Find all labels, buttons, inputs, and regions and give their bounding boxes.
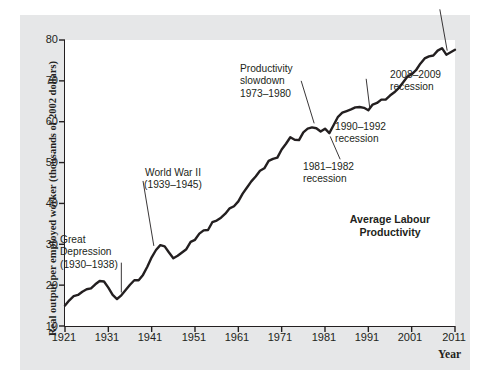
x-tick-label-1931: 1931 bbox=[87, 331, 127, 343]
x-tick-label-1941: 1941 bbox=[130, 331, 170, 343]
figure-panel: Real output per employed worker (thousan… bbox=[20, 15, 470, 370]
y-tick-label-20: 20 bbox=[32, 279, 58, 291]
x-tick-label-2001: 2001 bbox=[390, 331, 430, 343]
x-tick-label-1971: 1971 bbox=[260, 331, 300, 343]
x-tick-label-1981: 1981 bbox=[304, 331, 344, 343]
leader-recession-2008-2009 bbox=[440, 9, 447, 50]
x-tick-label-1921: 1921 bbox=[44, 331, 84, 343]
annotation-recession-1990-1992: 1990–1992 recession bbox=[335, 121, 386, 146]
y-tick-label-70: 70 bbox=[32, 74, 58, 86]
y-tick-label-30: 30 bbox=[32, 238, 58, 250]
x-tick-label-2011: 2011 bbox=[434, 331, 474, 343]
y-tick-label-60: 60 bbox=[32, 115, 58, 127]
annotation-great-depression: Great Depression (1930–1938) bbox=[60, 234, 118, 271]
x-tick-label-1961: 1961 bbox=[217, 331, 257, 343]
x-tick-label-1991: 1991 bbox=[347, 331, 387, 343]
annotation-productivity-slowdown: Productivity slowdown 1973–1980 bbox=[240, 63, 293, 100]
y-tick-label-40: 40 bbox=[32, 197, 58, 209]
annotation-recession-2008-2009: 2008–2009 recession bbox=[390, 69, 441, 94]
x-tick-label-1951: 1951 bbox=[174, 331, 214, 343]
annotation-world-war-two: World War II (1939–1945) bbox=[130, 167, 216, 192]
annotation-recession-1981-1982: 1981–1982 recession bbox=[303, 161, 354, 186]
leader-productivity-slowdown bbox=[301, 81, 314, 123]
leader-recession-1990-1992 bbox=[366, 79, 369, 107]
x-axis-title: Year bbox=[438, 348, 461, 360]
y-tick-label-80: 80 bbox=[32, 33, 58, 45]
series-label-average-labour-productivity: Average Labour Productivity bbox=[335, 213, 445, 239]
y-tick-label-50: 50 bbox=[32, 156, 58, 168]
